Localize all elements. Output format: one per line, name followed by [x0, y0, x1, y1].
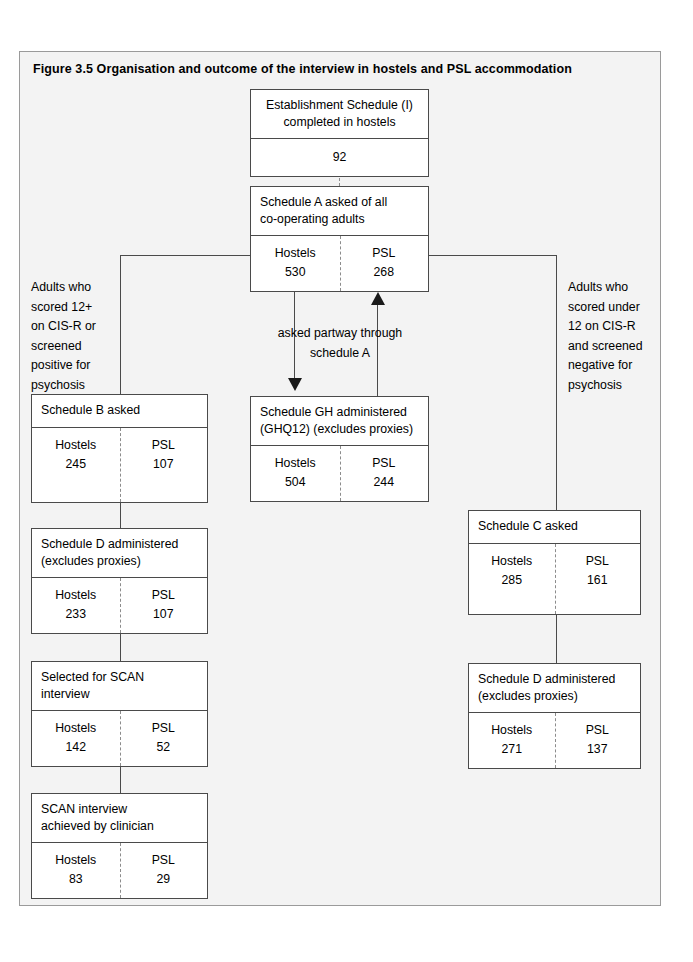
node-schedule-c-psl-label: PSL: [557, 552, 639, 571]
annotation-left-branch-line6: psychosis: [31, 376, 121, 396]
node-scan-achieved-header-line2: achieved by clinician: [41, 818, 198, 835]
node-scan-selected-psl-label: PSL: [122, 719, 206, 738]
node-scan-achieved-hostels-value: 83: [34, 870, 118, 889]
node-scan-achieved-divider: [120, 843, 121, 898]
node-schedule-gh-body: Hostels 504 PSL 244: [251, 445, 428, 501]
node-schedule-d-left-psl-label: PSL: [122, 586, 206, 605]
node-scan-selected-hostels-label: Hostels: [34, 719, 118, 738]
node-scan-selected-hostels-cell: Hostels 142: [32, 711, 120, 766]
node-schedule-d-left-hostels-label: Hostels: [34, 586, 118, 605]
annotation-left-branch-line5: positive for: [31, 356, 121, 376]
node-scan-achieved-header-line1: SCAN interview: [41, 801, 198, 818]
node-schedule-d-left-header: Schedule D administered (excludes proxie…: [32, 529, 207, 577]
annotation-right-branch-line5: negative for: [568, 356, 673, 376]
node-schedule-a-psl-label: PSL: [342, 244, 427, 263]
figure-page: Figure 3.5 Organisation and outcome of t…: [0, 0, 693, 962]
node-schedule-c-body: Hostels 285 PSL 161: [469, 543, 640, 614]
node-scan-selected-divider: [120, 711, 121, 766]
node-schedule-a: Schedule A asked of all co-operating adu…: [250, 186, 429, 292]
node-schedule-gh-hostels-label: Hostels: [253, 454, 338, 473]
node-schedule-gh-psl-label: PSL: [342, 454, 427, 473]
node-schedule-d-right-header-line1: Schedule D administered: [478, 671, 631, 688]
node-schedule-d-left-header-line2: (excludes proxies): [41, 553, 198, 570]
node-schedule-gh-header-line2: (GHQ12) (excludes proxies): [260, 421, 419, 438]
node-establishment-body: 92: [251, 138, 428, 176]
node-scan-achieved-hostels-label: Hostels: [34, 851, 118, 870]
node-schedule-b-psl-cell: PSL 107: [120, 428, 208, 502]
node-scan-achieved-body: Hostels 83 PSL 29: [32, 842, 207, 898]
node-schedule-d-right-body: Hostels 271 PSL 137: [469, 712, 640, 768]
node-scan-achieved-psl-value: 29: [122, 870, 206, 889]
node-schedule-d-left-hostels-value: 233: [34, 605, 118, 624]
node-establishment-schedule: Establishment Schedule (I) completed in …: [250, 89, 429, 177]
node-schedule-b: Schedule B asked Hostels 245 PSL 107: [31, 394, 208, 503]
node-schedule-gh-hostels-value: 504: [253, 473, 338, 492]
node-scan-selected-psl-value: 52: [122, 738, 206, 757]
node-schedule-c-hostels-label: Hostels: [471, 552, 553, 571]
annotation-right-branch-line6: psychosis: [568, 376, 673, 396]
node-schedule-d-right-hostels-value: 271: [471, 740, 553, 759]
node-schedule-a-header-line1: Schedule A asked of all: [260, 194, 419, 211]
node-schedule-a-hostels-cell: Hostels 530: [251, 236, 340, 291]
node-schedule-c-header: Schedule C asked: [469, 511, 640, 543]
node-schedule-d-right-psl-label: PSL: [557, 721, 639, 740]
node-schedule-b-header-line1: Schedule B asked: [41, 402, 198, 419]
node-schedule-b-psl-label: PSL: [122, 436, 206, 455]
node-schedule-b-hostels-value: 245: [34, 455, 118, 474]
annotation-left-branch-line2: scored 12+: [31, 298, 121, 318]
node-establishment-value: 92: [333, 150, 347, 164]
annotation-left-branch-line3: on CIS-R or: [31, 317, 121, 337]
node-scan-selected-header: Selected for SCAN interview: [32, 662, 207, 710]
figure-title: Figure 3.5 Organisation and outcome of t…: [33, 62, 572, 76]
node-schedule-d-left-header-line1: Schedule D administered: [41, 536, 198, 553]
node-establishment-header: Establishment Schedule (I) completed in …: [251, 90, 428, 138]
node-scan-selected: Selected for SCAN interview Hostels 142 …: [31, 661, 208, 767]
connector-schedule-c-to-schedule-d: [556, 613, 557, 663]
node-scan-achieved-psl-cell: PSL 29: [120, 843, 208, 898]
node-schedule-a-psl-cell: PSL 268: [340, 236, 429, 291]
connector-schedule-a-right-horizontal: [428, 255, 557, 256]
node-schedule-a-body: Hostels 530 PSL 268: [251, 235, 428, 291]
node-scan-achieved-header: SCAN interview achieved by clinician: [32, 794, 207, 842]
node-schedule-c-header-line1: Schedule C asked: [478, 518, 631, 535]
node-scan-achieved-psl-label: PSL: [122, 851, 206, 870]
annotation-middle: asked partway through schedule A: [253, 324, 427, 363]
connector-schedule-a-left-horizontal: [120, 255, 250, 256]
node-schedule-b-hostels-label: Hostels: [34, 436, 118, 455]
node-schedule-d-right-psl-cell: PSL 137: [555, 713, 641, 768]
node-schedule-a-header-line2: co-operating adults: [260, 211, 419, 228]
node-schedule-d-right-psl-value: 137: [557, 740, 639, 759]
node-schedule-gh-header: Schedule GH administered (GHQ12) (exclud…: [251, 397, 428, 445]
node-schedule-a-header: Schedule A asked of all co-operating adu…: [251, 187, 428, 235]
node-schedule-d-left-hostels-cell: Hostels 233: [32, 578, 120, 633]
node-schedule-a-divider: [340, 236, 341, 291]
annotation-right-branch-line2: scored under: [568, 298, 673, 318]
connector-schedule-b-to-schedule-d: [120, 501, 121, 528]
annotation-right-branch-line4: and screened: [568, 337, 673, 357]
node-scan-achieved-hostels-cell: Hostels 83: [32, 843, 120, 898]
node-schedule-a-hostels-value: 530: [253, 263, 338, 282]
node-schedule-gh-header-line1: Schedule GH administered: [260, 404, 419, 421]
node-schedule-a-hostels-label: Hostels: [253, 244, 338, 263]
node-schedule-b-body: Hostels 245 PSL 107: [32, 427, 207, 502]
node-schedule-gh-psl-value: 244: [342, 473, 427, 492]
node-schedule-b-hostels-cell: Hostels 245: [32, 428, 120, 502]
annotation-left-branch: Adults who scored 12+ on CIS-R or screen…: [31, 278, 121, 395]
node-schedule-d-left-psl-cell: PSL 107: [120, 578, 208, 633]
connector-schedule-a-right-vertical: [556, 255, 557, 510]
connector-scan-selected-to-scan-achieved: [120, 766, 121, 793]
node-schedule-c: Schedule C asked Hostels 285 PSL 161: [468, 510, 641, 615]
node-schedule-b-header: Schedule B asked: [32, 395, 207, 427]
node-schedule-c-divider: [555, 544, 556, 614]
annotation-left-branch-line4: screened: [31, 337, 121, 357]
node-schedule-d-right: Schedule D administered (excludes proxie…: [468, 663, 641, 769]
node-schedule-gh-psl-cell: PSL 244: [340, 446, 429, 501]
node-schedule-d-right-hostels-label: Hostels: [471, 721, 553, 740]
node-scan-selected-body: Hostels 142 PSL 52: [32, 710, 207, 766]
node-schedule-d-left-body: Hostels 233 PSL 107: [32, 577, 207, 633]
node-scan-selected-psl-cell: PSL 52: [120, 711, 208, 766]
annotation-middle-line1: asked partway through: [253, 324, 427, 344]
node-scan-selected-hostels-value: 142: [34, 738, 118, 757]
node-schedule-d-right-header-line2: (excludes proxies): [478, 688, 631, 705]
annotation-right-branch: Adults who scored under 12 on CIS-R and …: [568, 278, 673, 395]
